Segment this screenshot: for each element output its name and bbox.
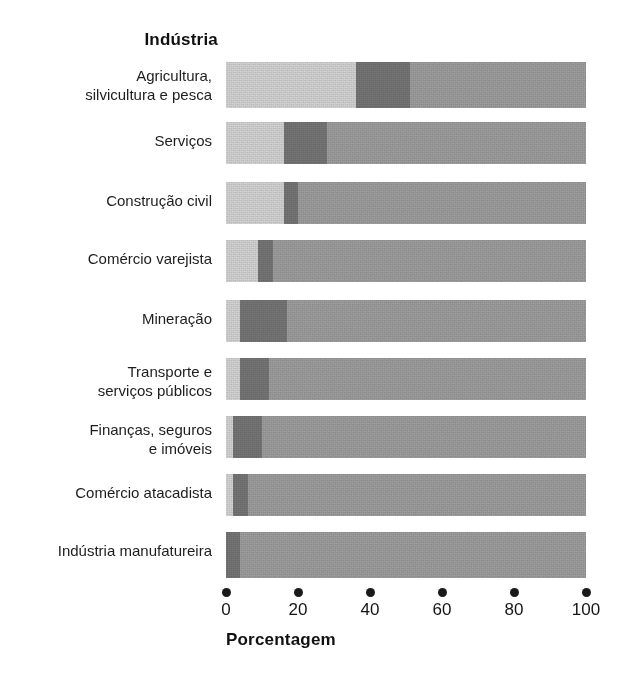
- bar-segment-segmento-claro: [226, 474, 233, 516]
- bar-row-label: Indústria manufatureira: [0, 541, 212, 560]
- bar-segment-segmento-medio: [269, 358, 586, 400]
- bar-segment-segmento-claro: [226, 300, 240, 342]
- bar-row-label: Agricultura, silvicultura e pesca: [0, 66, 212, 104]
- bar-segment-segmento-medio: [273, 240, 586, 282]
- bar-row-label: Comércio varejista: [0, 249, 212, 268]
- x-axis-title: Porcentagem: [226, 630, 336, 650]
- stacked-bar: [226, 240, 586, 282]
- bar-row-label: Serviços: [0, 131, 212, 150]
- bar-row-label: Finanças, seguros e imóveis: [0, 420, 212, 458]
- x-axis-tick-dot: [222, 588, 231, 597]
- bar-row-label: Transporte e serviços públicos: [0, 362, 212, 400]
- bar-segment-segmento-escuro: [226, 532, 240, 578]
- bar-segment-segmento-escuro: [356, 62, 410, 108]
- stacked-bar: [226, 532, 586, 578]
- bar-segment-segmento-medio: [287, 300, 586, 342]
- stacked-bar: [226, 358, 586, 400]
- stacked-bar: [226, 62, 586, 108]
- bar-row-label: Comércio atacadista: [0, 483, 212, 502]
- x-axis-tick-dot: [438, 588, 447, 597]
- bar-segment-segmento-claro: [226, 62, 356, 108]
- bar-segment-segmento-medio: [240, 532, 586, 578]
- bar-segment-segmento-escuro: [233, 474, 247, 516]
- bar-segment-segmento-medio: [262, 416, 586, 458]
- bar-segment-segmento-escuro: [240, 358, 269, 400]
- bar-rows: Agricultura, silvicultura e pescaServiço…: [0, 0, 625, 520]
- x-axis-tick-dot: [366, 588, 375, 597]
- stacked-bar-chart: Indústria Agricultura, silvicultura e pe…: [0, 0, 625, 677]
- bar-segment-segmento-escuro: [284, 182, 298, 224]
- x-axis-tick-dot: [582, 588, 591, 597]
- x-axis-tick-label: 80: [505, 600, 524, 620]
- x-axis-tick-label: 0: [221, 600, 230, 620]
- bar-segment-segmento-claro: [226, 416, 233, 458]
- x-axis-tick-label: 40: [361, 600, 380, 620]
- bar-segment-segmento-claro: [226, 182, 284, 224]
- x-axis-tick-label: 100: [572, 600, 600, 620]
- bar-segment-segmento-claro: [226, 240, 258, 282]
- stacked-bar: [226, 182, 586, 224]
- stacked-bar: [226, 122, 586, 164]
- stacked-bar: [226, 300, 586, 342]
- bar-segment-segmento-escuro: [240, 300, 287, 342]
- bar-segment-segmento-claro: [226, 358, 240, 400]
- x-axis-tick-label: 20: [289, 600, 308, 620]
- bar-row-label: Mineração: [0, 309, 212, 328]
- bar-segment-segmento-medio: [410, 62, 586, 108]
- bar-segment-segmento-medio: [248, 474, 586, 516]
- bar-segment-segmento-escuro: [258, 240, 272, 282]
- stacked-bar: [226, 416, 586, 458]
- bar-segment-segmento-escuro: [284, 122, 327, 164]
- bar-row-label: Construção civil: [0, 191, 212, 210]
- bar-segment-segmento-escuro: [233, 416, 262, 458]
- bar-segment-segmento-medio: [327, 122, 586, 164]
- x-axis-tick-dot: [510, 588, 519, 597]
- x-axis-tick-dot: [294, 588, 303, 597]
- stacked-bar: [226, 474, 586, 516]
- bar-segment-segmento-claro: [226, 122, 284, 164]
- x-axis: 020406080100 Porcentagem: [0, 588, 625, 677]
- x-axis-tick-label: 60: [433, 600, 452, 620]
- bar-segment-segmento-medio: [298, 182, 586, 224]
